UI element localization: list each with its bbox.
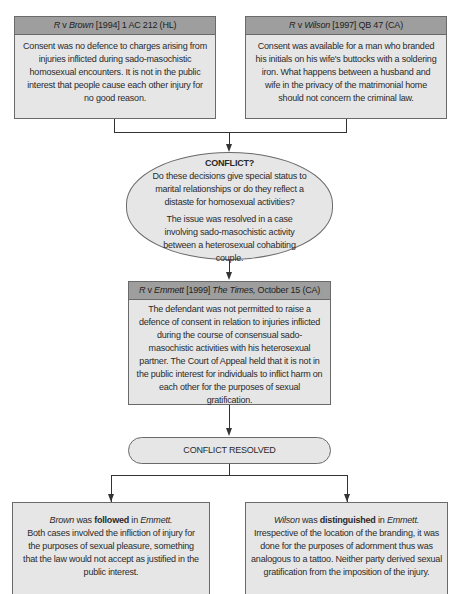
case-header-emmett: R v Emmett [1999] The Times, October 15 … (129, 282, 330, 300)
conflict-oval: CONFLICT? Do these decisions give specia… (126, 152, 333, 260)
case-citation: [1994] 1 AC 212 (HL) (93, 20, 176, 30)
text: was (74, 515, 94, 525)
outcome-summary-followed: Brown was followed in Emmett. Both cases… (13, 503, 209, 579)
case-name: Brown (69, 20, 94, 30)
conflict-resolution: The issue was resolved in a case involvi… (127, 213, 332, 265)
connector-line (114, 132, 347, 133)
case-v: v (295, 20, 304, 30)
case-header-brown: R v Brown [1994] 1 AC 212 (HL) (15, 17, 215, 35)
case-summary-brown: Consent was no defence to charges arisin… (15, 35, 215, 105)
outcome-box-distinguished: Wilson was distinguished in Emmett. Irre… (245, 502, 448, 594)
case-box-wilson: R v Wilson [1997] QB 47 (CA) Consent was… (245, 16, 447, 119)
arrow-down-icon (226, 428, 232, 436)
case-report: The Times, (212, 285, 255, 295)
connector-line (114, 119, 115, 133)
text: in (376, 515, 387, 525)
case-citation: [1999] (184, 285, 212, 295)
outcome-heading-followed: Brown was followed in Emmett. (21, 514, 201, 527)
case-v: v (145, 285, 154, 295)
arrow-down-icon (226, 272, 232, 280)
outcome-summary-distinguished: Wilson was distinguished in Emmett. Irre… (246, 503, 447, 579)
connector-line (229, 405, 230, 430)
conflict-resolved-label: CONFLICT RESOLVED (183, 445, 275, 455)
outcome-verb: followed (94, 515, 129, 525)
case-header-wilson: R v Wilson [1997] QB 47 (CA) (246, 17, 446, 35)
case-name: Emmett (154, 285, 184, 295)
outcome-verb: distinguished (320, 515, 376, 525)
connector-line (111, 475, 348, 476)
arrow-down-icon (344, 494, 350, 502)
case-summary-emmett: The defendant was not permitted to raise… (129, 300, 330, 407)
case-name: Emmett. (140, 515, 172, 525)
connector-line (229, 132, 230, 144)
arrow-down-icon (226, 144, 232, 152)
case-v: v (60, 20, 69, 30)
case-citation: [1997] QB 47 (CA) (330, 20, 403, 30)
case-summary-wilson: Consent was available for a man who bran… (246, 35, 446, 105)
outcome-heading-distinguished: Wilson was distinguished in Emmett. (251, 514, 442, 527)
case-name: Wilson (274, 515, 300, 525)
outcome-body-distinguished: Irrespective of the location of the bran… (251, 527, 442, 579)
case-name: Emmett. (387, 515, 419, 525)
case-date-court: October 15 (CA) (255, 285, 320, 295)
case-name: Wilson (304, 20, 330, 30)
case-box-brown: R v Brown [1994] 1 AC 212 (HL) Consent w… (14, 16, 216, 119)
case-box-emmett: R v Emmett [1999] The Times, October 15 … (128, 281, 331, 405)
text: in (129, 515, 140, 525)
arrow-down-icon (108, 494, 114, 502)
connector-line (229, 464, 230, 475)
conflict-title: CONFLICT? (127, 157, 332, 170)
case-name: Brown (50, 515, 75, 525)
text: was (300, 515, 320, 525)
outcome-box-followed: Brown was followed in Emmett. Both cases… (12, 502, 210, 594)
outcome-body-followed: Both cases involved the infliction of in… (21, 527, 201, 579)
conflict-question: Do these decisions give special status t… (127, 170, 332, 209)
connector-line (346, 119, 347, 133)
conflict-resolved-pill: CONFLICT RESOLVED (128, 437, 331, 464)
